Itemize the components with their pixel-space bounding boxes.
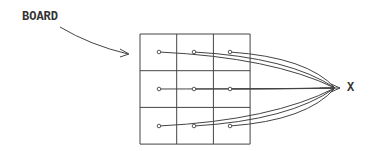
board-point (228, 87, 232, 91)
connection-lines (159, 52, 335, 126)
board-point (228, 124, 232, 128)
board-label: BOARD (22, 10, 58, 24)
board-point (192, 124, 196, 128)
board-point (192, 87, 196, 91)
board-point (157, 124, 161, 128)
board-pointer-arrow (60, 27, 128, 54)
board-point (192, 50, 196, 54)
target-label: X (347, 81, 354, 95)
board-point (157, 87, 161, 91)
board-point (157, 50, 161, 54)
board-point (228, 50, 232, 54)
connection-curve (194, 52, 335, 88)
